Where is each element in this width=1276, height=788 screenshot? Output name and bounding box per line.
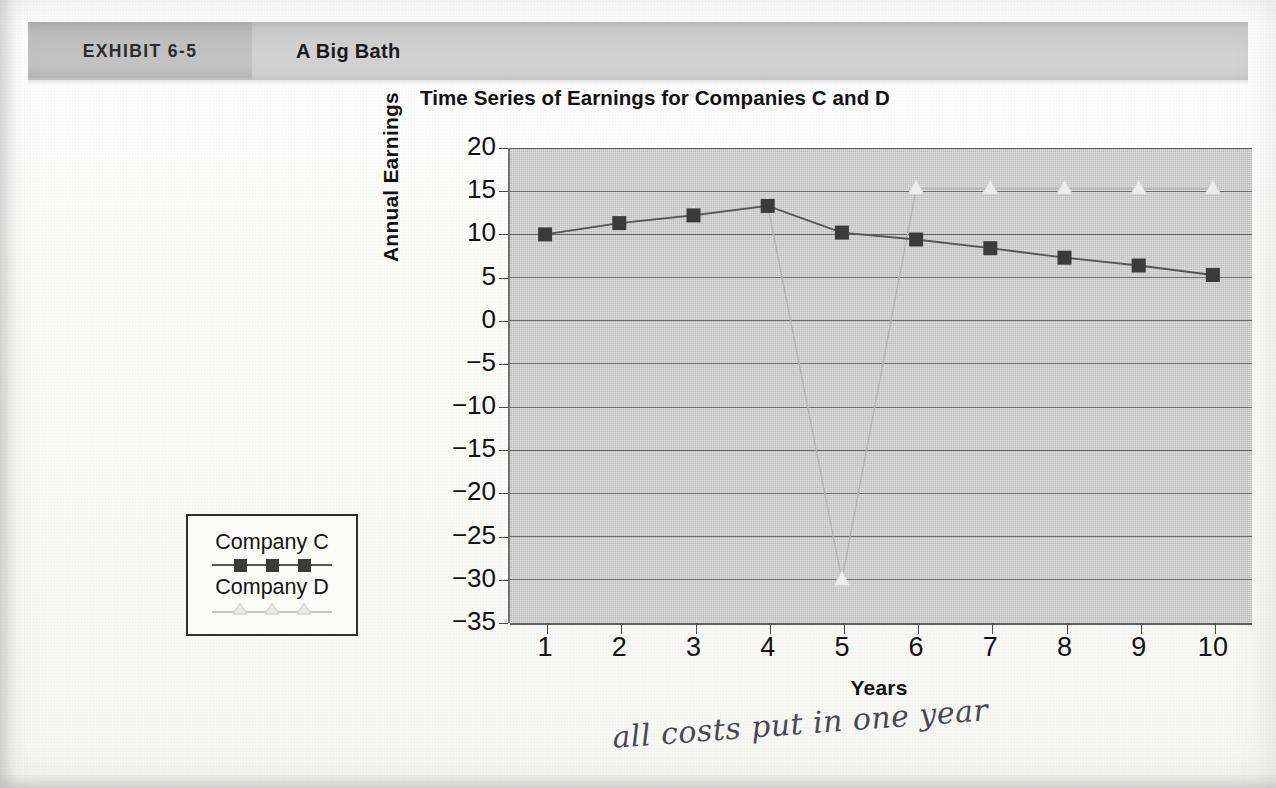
y-axis-tick-label: 15	[467, 176, 496, 202]
y-axis-labels: 20151050−5−10−15−20−25−30−35	[418, 148, 496, 623]
legend-sample-company-d	[208, 600, 336, 620]
x-axis-title: Years	[508, 676, 1250, 700]
legend-label-company-d: Company D	[215, 575, 329, 600]
y-axis-tick	[499, 364, 508, 365]
y-axis-tick	[499, 537, 508, 538]
y-axis-tick	[499, 191, 508, 192]
x-axis-tick-label: 7	[960, 632, 1020, 663]
y-axis-tick-label: 5	[482, 263, 496, 289]
x-axis-tick-label: 3	[664, 632, 724, 663]
y-axis-tick-label: −5	[466, 349, 496, 375]
y-axis-tick	[499, 278, 508, 279]
x-axis-tick-label: 5	[812, 632, 872, 663]
legend-entry-company-d: Company D	[188, 575, 356, 620]
y-axis-tick	[499, 450, 508, 451]
series-company-d	[537, 179, 1221, 585]
y-axis-tick-label: −15	[452, 435, 496, 461]
y-axis-tick-label: −20	[452, 478, 496, 504]
y-axis-tick-label: 0	[482, 306, 496, 332]
x-axis-tick-label: 6	[886, 632, 946, 663]
x-axis-tick-label: 1	[515, 632, 575, 663]
x-axis-tick-label: 8	[1035, 632, 1095, 663]
y-axis-tick	[499, 148, 508, 149]
y-axis-tick-label: 20	[467, 133, 496, 159]
x-axis-tick-label: 4	[738, 632, 798, 663]
x-axis-tick-label: 10	[1183, 632, 1243, 663]
legend-sample-company-c	[208, 555, 336, 575]
chart-legend: Company C Company D	[186, 514, 358, 636]
x-axis-tick-label: 9	[1109, 632, 1169, 663]
y-axis-title: Annual Earnings	[379, 0, 403, 262]
y-axis-tick	[499, 407, 508, 408]
x-axis-tick-label: 2	[589, 632, 649, 663]
data-series-layer	[508, 148, 1250, 623]
legend-label-company-c: Company C	[215, 530, 329, 555]
legend-entry-company-c: Company C	[188, 530, 356, 575]
y-axis-tick	[499, 623, 508, 624]
y-axis-tick	[499, 234, 508, 235]
y-axis-tick-label: −35	[452, 608, 496, 634]
chart-area: 20151050−5−10−15−20−25−30−35 12345678910…	[0, 0, 1276, 788]
y-axis-tick	[499, 321, 508, 322]
y-axis-tick	[499, 580, 508, 581]
y-axis-tick-label: −25	[452, 522, 496, 548]
y-axis-tick	[499, 493, 508, 494]
y-axis-tick-label: 10	[467, 219, 496, 245]
y-axis-tick-label: −30	[452, 565, 496, 591]
series-company-c	[538, 199, 1220, 282]
y-axis-tick-label: −10	[452, 392, 496, 418]
